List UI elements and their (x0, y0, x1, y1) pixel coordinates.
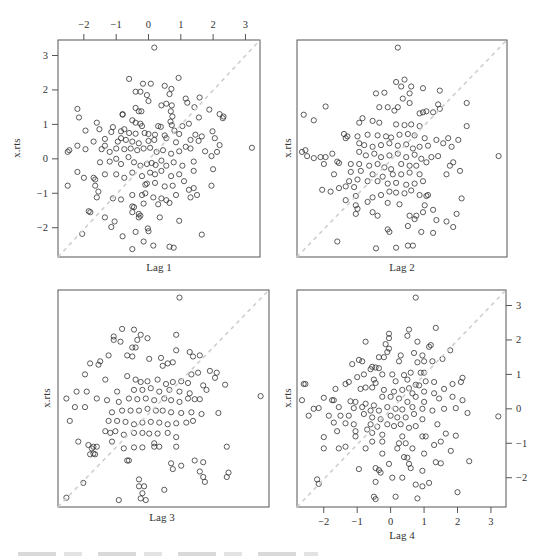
data-point (415, 339, 420, 344)
data-point (109, 439, 114, 444)
data-point (111, 337, 116, 342)
top-x-axis: −2−10123 (78, 19, 248, 40)
data-point (131, 445, 136, 450)
data-point (376, 355, 381, 360)
data-point (378, 143, 383, 148)
data-point (380, 439, 385, 444)
data-point (127, 130, 132, 135)
data-point (437, 88, 442, 93)
data-point (395, 143, 400, 148)
reference-line-y-equals-x (297, 40, 507, 257)
y-axis-label: x.rts (40, 388, 52, 407)
data-point (353, 429, 358, 434)
y-axis-label: x.rts (281, 388, 293, 407)
data-point (422, 451, 427, 456)
data-point (165, 430, 170, 435)
data-point (148, 145, 153, 150)
data-point (152, 132, 157, 137)
data-point (425, 143, 430, 148)
data-point (451, 160, 456, 165)
data-point (323, 104, 328, 109)
data-point (160, 363, 165, 368)
data-point (131, 160, 136, 165)
data-point (133, 131, 138, 136)
data-point (408, 370, 413, 375)
data-point (333, 386, 338, 391)
tick-label: −1 (352, 516, 363, 527)
data-point (360, 116, 365, 121)
data-point (447, 163, 452, 168)
data-point (360, 359, 365, 364)
data-point (380, 451, 385, 456)
data-point (376, 366, 381, 371)
data-point (75, 106, 80, 111)
data-point (343, 198, 348, 203)
data-point (385, 200, 390, 205)
tick-label: 3 (488, 516, 493, 527)
data-point (118, 339, 123, 344)
data-point (438, 461, 443, 466)
data-point (360, 405, 365, 410)
data-point (387, 141, 392, 146)
data-point (459, 196, 464, 201)
data-point (140, 387, 145, 392)
data-point (444, 219, 449, 224)
data-point (169, 461, 174, 466)
data-point (97, 160, 102, 165)
data-point (401, 373, 406, 378)
data-point (380, 432, 385, 437)
data-point (451, 224, 456, 229)
panel-lag1: −2−10123 −2−10123 Lag 1 x.rts (10, 19, 260, 273)
data-point (353, 434, 358, 439)
data-point (126, 396, 131, 401)
data-point (152, 137, 157, 142)
data-point (420, 484, 425, 489)
data-point (143, 498, 148, 503)
data-point (125, 374, 130, 379)
data-point (355, 177, 360, 182)
data-point (448, 448, 453, 453)
data-point (130, 192, 135, 197)
data-point (410, 446, 415, 451)
data-point (84, 389, 89, 394)
tick-label: 3 (243, 19, 248, 30)
data-point (133, 229, 138, 234)
y-axis-label: x.rts (281, 138, 293, 157)
data-point (93, 452, 98, 457)
data-point (191, 159, 196, 164)
data-point (434, 137, 439, 142)
data-point (199, 232, 204, 237)
data-point (355, 134, 360, 139)
data-point (436, 154, 441, 159)
data-point (378, 192, 383, 197)
data-point (331, 420, 336, 425)
data-point (370, 118, 375, 123)
data-point (398, 353, 403, 358)
data-point (394, 79, 399, 84)
data-point (209, 154, 214, 159)
data-point (397, 202, 402, 207)
data-point (131, 205, 136, 210)
data-point (363, 153, 368, 158)
lag-plot-figure: −2−10123 −2−10123 Lag 1 x.rts Lag 2 x.rt… (0, 0, 541, 559)
data-point (385, 181, 390, 186)
data-point (361, 411, 366, 416)
data-point (169, 86, 174, 91)
data-point (380, 372, 385, 377)
data-point (377, 105, 382, 110)
data-point (162, 83, 167, 88)
data-point (145, 379, 150, 384)
data-point (177, 399, 182, 404)
data-point (108, 430, 113, 435)
data-point (420, 468, 425, 473)
data-point (165, 422, 170, 427)
data-point (328, 189, 333, 194)
data-point (409, 188, 414, 193)
data-point (193, 132, 198, 137)
data-point (370, 195, 375, 200)
data-point (417, 172, 422, 177)
data-point (425, 192, 430, 197)
data-point (106, 353, 111, 358)
data-point (420, 406, 425, 411)
data-point (370, 385, 375, 390)
